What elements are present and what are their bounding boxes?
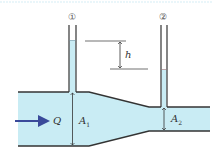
venturi-diagram	[0, 0, 223, 162]
tube1-label: ①	[68, 13, 76, 22]
area2-label: A2	[171, 114, 182, 126]
tube2-water	[162, 69, 167, 108]
area1-label: A1	[79, 116, 90, 128]
tube1-water	[70, 40, 76, 93]
area1-subscript: 1	[86, 121, 90, 128]
flow-label: Q	[53, 116, 61, 126]
area2-subscript: 2	[178, 119, 182, 126]
head-difference-label: h	[125, 50, 131, 60]
tube2-label: ②	[159, 13, 167, 22]
